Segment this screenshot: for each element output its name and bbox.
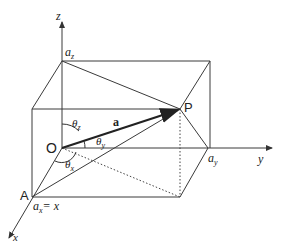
point-a-label: A (20, 189, 29, 202)
az-label: az (65, 46, 74, 61)
theta-z-label: θz (72, 118, 81, 132)
x-axis (9, 148, 62, 238)
z-axis-label: z (56, 10, 61, 22)
point-p-label: P (184, 101, 193, 114)
theta-y-label: θy (96, 136, 105, 150)
theta-y-arc (84, 141, 85, 148)
x-axis-label: x (13, 232, 18, 243)
ay-label: ay (208, 152, 218, 167)
ax-label: ax= x (33, 200, 59, 215)
y-axis-label: y (258, 153, 263, 165)
theta-x-label: θx (65, 159, 74, 173)
origin-label: O (46, 141, 57, 155)
vector-a-label: a (113, 116, 119, 128)
vector-diagram: z y x az ay ax= x O P A a θz θy θx (0, 0, 282, 246)
